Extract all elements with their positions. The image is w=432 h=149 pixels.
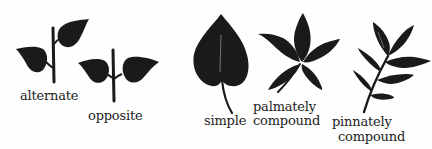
leaf-types-diagram: alternate opposite simple palmately comp… <box>0 0 432 149</box>
opposite-leaves-icon <box>78 50 159 101</box>
label-palmately-line1: palmately <box>253 100 316 114</box>
label-palmately-line2: compound <box>253 114 320 128</box>
pinnately-compound-leaf-icon <box>353 22 431 112</box>
simple-leaf-icon <box>193 14 248 113</box>
label-simple: simple <box>204 114 246 128</box>
label-pinnately-line1: pinnately <box>332 115 392 129</box>
alternate-leaves-icon <box>16 19 89 82</box>
label-pinnately-line2: compound <box>338 130 405 144</box>
palmately-compound-leaf-icon <box>258 13 340 92</box>
label-opposite: opposite <box>88 109 142 123</box>
label-alternate: alternate <box>20 89 78 103</box>
